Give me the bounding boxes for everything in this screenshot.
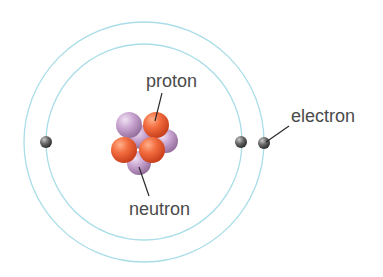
electron-label: electron (291, 106, 355, 126)
neutron-label: neutron (129, 199, 190, 219)
atom-diagram: proton neutron electron (0, 0, 383, 277)
proton-particle (111, 137, 137, 163)
proton-particle (139, 137, 165, 163)
proton-label: proton (146, 71, 197, 91)
electron-leader-line (266, 126, 289, 142)
neutron-particle (116, 112, 142, 138)
electron-particle (235, 136, 247, 148)
nucleus (111, 112, 178, 175)
electron-particle (258, 137, 270, 149)
electron-particle (40, 136, 52, 148)
